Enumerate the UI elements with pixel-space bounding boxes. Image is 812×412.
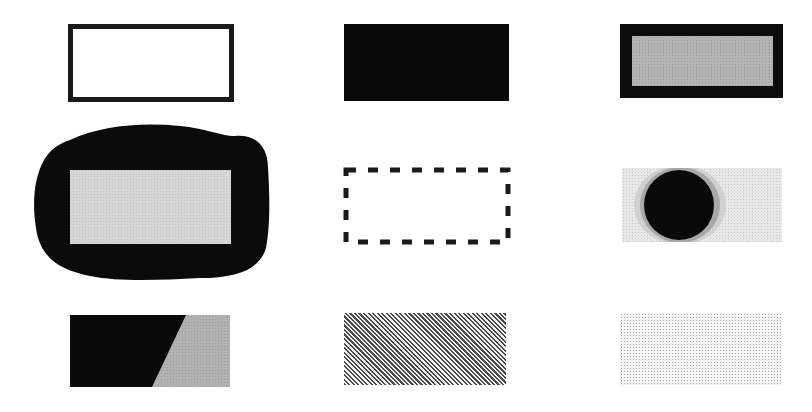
framed-gray-rectangle-swatch — [620, 24, 783, 98]
dashed-outline-rectangle-swatch — [338, 162, 516, 250]
black-blob-with-gray-rectangle-swatch — [30, 118, 275, 286]
gray-inner-fill — [632, 36, 773, 86]
diagonal-hatched-rectangle-swatch — [344, 313, 506, 385]
circle-graphic — [622, 168, 782, 242]
gray-inner-rectangle — [70, 170, 231, 244]
solid-black-rectangle-swatch — [344, 24, 509, 101]
diagonal-split-rectangle-swatch — [70, 315, 230, 387]
light-dotted-rectangle-swatch — [620, 313, 782, 385]
outlined-rectangle-swatch — [68, 24, 234, 102]
circle-on-dotted-field-swatch — [622, 168, 782, 242]
black-circle — [644, 170, 714, 240]
